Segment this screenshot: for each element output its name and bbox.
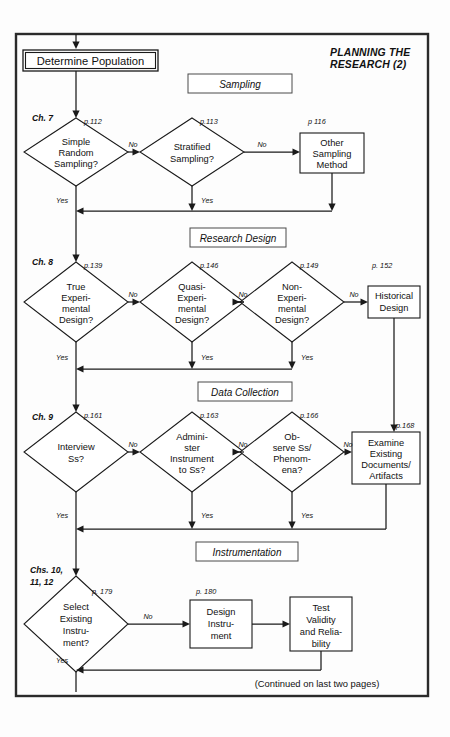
decision-stratified-sampling[interactable] [140,118,244,186]
row3-merge-arrowhead [76,525,84,532]
stage-label-data-collection: Data Collection [211,387,279,398]
start-to-row1-arrowhead [72,111,79,119]
row2-to-row3-arrowhead [72,405,79,413]
box-other-sampling-method-line1: Other [320,138,343,148]
page-ref-p146: p.146 [199,261,219,270]
row2-no3-label: No [349,290,358,299]
page-ref-p112: p.112 [83,117,102,126]
box-test-validity-line3: and Relia- [300,627,342,637]
stage-label-instrumentation: Instrumentation [213,547,282,558]
row1-no2-label: No [257,140,266,149]
page-ref-p139: p.139 [83,261,102,270]
row1-merge-arrowhead [76,207,84,214]
decision-true-experimental-line4: Design? [59,315,93,325]
row1-no2-arrowhead [293,148,301,155]
row2-yes1-label: Yes [56,353,68,362]
row1-yes2-arrowhead [188,204,195,212]
decision-simple-random-sampling-line2: Random [58,148,93,158]
decision-quasi-experimental-line4: Design? [175,315,209,325]
page-ref-p149: p.149 [299,261,318,270]
decision-true-experimental-line3: mental [62,304,90,314]
box-historical-design-line2: Design [380,303,409,313]
decision-observe-ss-line1: Ob- [284,432,300,442]
box-historical-design-line1: Historical [375,291,413,301]
row1-no1-label: No [128,140,137,149]
box-design-instrument-line1: Design [207,607,236,617]
row1-to-row2-arrowhead [72,255,79,263]
decision-administer-instrument-line1: Admini- [176,432,208,442]
box-other-sampling-method-line3: Method [316,160,347,170]
chapter-label-ch7: Ch. 7 [32,113,54,123]
page-ref-p152: p. 152 [371,261,392,270]
decision-select-instrument-line4: ment? [63,638,89,648]
row3-yes1-label: Yes [56,511,68,520]
decision-non-experimental-line1: Non- [282,282,302,292]
decision-non-experimental-line2: Experi- [277,293,306,303]
row3-no1-label: No [128,440,137,449]
row2-no3-arrowhead [361,298,369,305]
row2-yes2-arrowhead [188,362,195,370]
row3-no3-label: No [343,440,352,449]
decision-select-instrument-line1: Select [63,602,89,612]
decision-select-instrument-line3: Instru- [63,626,89,636]
decision-interview-ss-line2: Ss? [68,454,84,464]
page-heading-line2: RESEARCH (2) [330,59,407,70]
page-ref-p161: p.161 [83,411,102,420]
box-test-validity-line1: Test [312,603,329,613]
row2-no2-label: No [238,290,247,299]
row3-yes2-arrowhead [188,522,195,530]
row1-yes1-label: Yes [56,196,68,205]
box-test-validity-line4: bility [312,639,331,649]
page-ref-p113: p.113 [199,117,218,126]
decision-observe-ss-line4: ena? [282,465,303,475]
row1-no1-arrowhead [133,148,141,155]
row2-yes3-label: Yes [301,353,313,362]
decision-observe-ss-line2: serve Ss/ [273,443,312,453]
decision-interview-ss[interactable] [24,412,128,492]
decision-non-experimental-line3: mental [278,304,306,314]
page-ref-p168: p.168 [395,421,415,430]
planning-the-research-flowchart: PLANNING THE RESEARCH (2) Determine Popu… [0,0,450,737]
page-ref-p116: p 116 [307,117,327,126]
row4-yes-label: Yes [56,656,68,665]
decision-stratified-sampling-line2: Sampling? [170,154,214,164]
page-ref-p179: p. 179 [91,587,112,596]
decision-quasi-experimental-line2: Experi- [177,293,206,303]
box-examine-line4: Artifacts [369,471,403,481]
decision-select-existing-instrument[interactable] [24,576,128,672]
row3-no1-arrowhead [133,448,141,455]
row2-yes2-label: Yes [201,353,213,362]
row1-yes2-label: Yes [201,196,213,205]
decision-simple-random-sampling-line1: Simple [62,137,90,147]
box-examine-line2: Existing [370,449,403,459]
chapter-label-ch8: Ch. 8 [32,257,53,267]
row1-terminal-arrowhead [328,204,335,212]
row4-no-label: No [143,612,152,621]
row2-yes3-arrowhead [288,362,295,370]
footer-note: (Continued on last two pages) [255,678,380,689]
row3-yes3-arrowhead [288,522,295,530]
row3-to-row4-arrowhead [72,569,79,577]
row3-yes3-label: Yes [301,511,313,520]
row2-no1-arrowhead [133,298,141,305]
decision-quasi-experimental-line1: Quasi- [178,282,205,292]
box-test-validity-line2: Validity [306,615,336,625]
page-ref-p166: p.166 [299,411,319,420]
decision-select-instrument-line2: Existing [60,614,93,624]
chapter-label-ch9: Ch. 9 [32,412,53,422]
row3-yes2-label: Yes [201,511,213,520]
row3-no3-arrowhead [345,448,353,455]
decision-simple-random-sampling-line3: Sampling? [54,159,98,169]
box-examine-line1: Examine [368,438,404,448]
design-to-test-arrowhead [283,620,291,627]
decision-quasi-experimental-line3: mental [178,304,206,314]
row2-merge-arrowhead [76,365,84,372]
row2-no1-label: No [128,290,137,299]
decision-true-experimental-line2: Experi- [61,293,90,303]
page-heading-line1: PLANNING THE [330,47,411,58]
box-examine-line3: Documents/ [361,460,411,470]
chapter-label-chs10-12-line2: 11, 12 [30,577,53,587]
decision-non-experimental-line4: Design? [275,315,309,325]
decision-administer-instrument-line4: to Ss? [179,465,205,475]
stage-label-sampling: Sampling [219,79,261,90]
